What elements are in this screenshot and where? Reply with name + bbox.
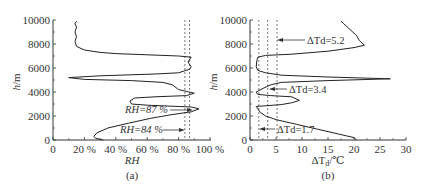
panel-a-y-ticks: 0200040006000800010000 [23,14,57,146]
annotation-rh-84: RH=84 % [119,124,163,135]
x-tick-label: 10 [297,143,309,155]
panel-a-y-label: h/m [10,73,22,91]
y-tick-label: 4000 [28,86,51,98]
x-tick-label: 0 [50,143,56,155]
annotation-td-52: ΔTd=5.2 [307,35,344,46]
x-tick-label: 80 % [167,143,190,155]
y-tick-label: 4000 [225,86,248,98]
y-tick-label: 6000 [28,62,51,74]
y-tick-label: 10000 [220,14,248,26]
panel-b-dewpoint-profile: 0200040006000800010000 051015202530 h/m … [207,14,412,182]
x-tick-label: 5 [273,143,279,155]
arrow-left-icon [277,38,283,42]
panel-a-caption: (a) [126,169,139,182]
x-tick-label: 0 [247,143,253,155]
x-tick-label: 20 [349,143,361,155]
panel-b-reference-lines [259,20,277,140]
y-tick-label: 2000 [28,110,51,122]
x-tick-label: 100 % [196,143,224,155]
x-tick-label: 25 [375,143,387,155]
x-tick-label: 20 % [73,143,96,155]
y-tick-label: 2000 [225,110,248,122]
panel-b-x-label: ΔTd/℃ [311,154,344,168]
panel-a-x-label: RH [124,154,141,166]
annotation-td-34: ΔTd=3.4 [289,84,327,95]
panel-b-caption: (b) [322,169,335,182]
panel-b-y-label: h/m [207,73,219,91]
annotation-rh-87: RH=87 % [124,104,168,115]
y-tick-label: 8000 [28,38,51,50]
y-tick-label: 10000 [23,14,51,26]
y-tick-label: 6000 [225,62,248,74]
figure: 0200040006000800010000 020 %40 %60 %80 %… [0,0,425,191]
arrow-left-icon [269,87,275,91]
panel-b-y-ticks: 0200040006000800010000 [220,14,254,146]
panel-a-rh-line [69,21,199,140]
panel-a-reference-lines [185,20,190,140]
arrow-right-icon [179,128,185,132]
y-tick-label: 8000 [225,38,248,50]
x-tick-label: 30 [401,143,413,155]
arrow-left-icon [259,127,265,131]
panel-a-rh-profile: 0200040006000800010000 020 %40 %60 %80 %… [10,14,224,182]
annotation-td-17: ΔTd=1.7 [277,124,314,135]
